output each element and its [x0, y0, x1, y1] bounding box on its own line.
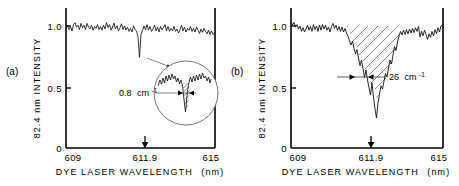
panel-a-linewidth-exponent: -1 — [152, 87, 158, 94]
panel-b-label: (b) — [231, 66, 243, 77]
panel-b-arrow-marker — [368, 136, 375, 149]
panel-a-xtick-label-2: 611.9 — [132, 152, 157, 163]
panel-b-xlabel: DYE LASER WAVELENGTH (nm) — [282, 167, 451, 177]
figure-root: (a) 82.4 nm INTENSITY 1.0 0.5 0 609 611.… — [0, 0, 459, 186]
panel-a-ytick-label-3: 0 — [56, 143, 62, 154]
panel-b-linewidth-unit: cm — [405, 72, 417, 82]
panel-a-spectrum-trace — [66, 23, 215, 58]
panel-a-linewidth-unit: cm — [137, 88, 149, 98]
panel-b-ylabel: 82.4 nm INTENSITY — [257, 38, 267, 139]
panel-a-ytick-label-2: 0.5 — [48, 83, 62, 94]
panel-b-xtick-label-1: 609 — [289, 152, 306, 163]
panel-a-xlabel-main: DYE LASER WAVELENGTH — [56, 167, 193, 177]
panel-a-xlabel: DYE LASER WAVELENGTH (nm) — [56, 167, 225, 177]
panel-a-ylabel: 82.4 nm INTENSITY — [32, 38, 42, 139]
panel-a-xtick-label-3: 615 — [202, 152, 219, 163]
panel-a-ytick-label-1: 1.0 — [48, 21, 62, 32]
panel-a: (a) 82.4 nm INTENSITY 1.0 0.5 0 609 611.… — [6, 8, 224, 177]
panel-b-xtick-label-3: 615 — [430, 152, 447, 163]
panel-a-linewidth-value: 0.8 — [119, 88, 132, 98]
panel-b-linewidth-annotation: 26 cm -1 — [389, 71, 425, 83]
panel-a-inset-magnifier — [154, 61, 218, 125]
panel-b-linewidth-exponent: -1 — [419, 71, 425, 78]
panel-a-inset-leader-line — [147, 58, 168, 66]
panel-b-xlabel-main: DYE LASER WAVELENGTH — [282, 167, 419, 177]
figure-svg: (a) 82.4 nm INTENSITY 1.0 0.5 0 609 611.… — [0, 0, 459, 186]
panel-b-ytick-label-3: 0 — [281, 143, 287, 154]
panel-b-linewidth-value: 26 — [389, 72, 399, 82]
panel-b-ytick-label-2: 0.5 — [273, 83, 287, 94]
panel-b-ytick-label-1: 1.0 — [273, 21, 287, 32]
panel-b-xlabel-unit: (nm) — [427, 167, 450, 177]
panel-a-label: (a) — [6, 66, 18, 77]
panel-a-xtick-label-1: 609 — [64, 152, 81, 163]
panel-a-xlabel-unit: (nm) — [201, 167, 224, 177]
panel-b-xtick-label-2: 611.9 — [358, 152, 383, 163]
panel-a-arrow-marker — [142, 136, 149, 149]
panel-a-linewidth-annotation: 0.8 cm -1 — [119, 87, 158, 99]
panel-b: (b) 82.4 nm INTENSITY 1.0 0.5 0 609 611.… — [231, 0, 450, 177]
